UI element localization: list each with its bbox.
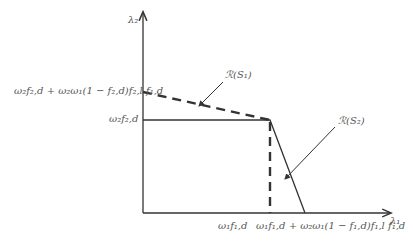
- x-tick-label-right: ω₁f₁,d + ω₂ω₁(1 − f₁,d)f₁,l f₁,d: [256, 220, 405, 231]
- region-s1-label: ℛ(S₁): [225, 69, 252, 80]
- s2-callout-arrow: [285, 127, 335, 179]
- y-tick-label-upper: ω₂f₂,d + ω₂ω₁(1 − f₂,d)f₂,l f₁,d: [14, 85, 163, 96]
- region-s2-boundary: [143, 120, 305, 213]
- x-tick-label-left: ω₁f₁,d: [218, 220, 247, 231]
- s1-callout-arrow: [199, 82, 223, 106]
- region-s1-boundary: [143, 92, 270, 120]
- y-axis-label: λ₂: [128, 14, 138, 25]
- y-tick-label-lower: ω₂f₂,d: [109, 113, 138, 124]
- region-s2-label: ℛ(S₂): [338, 115, 365, 126]
